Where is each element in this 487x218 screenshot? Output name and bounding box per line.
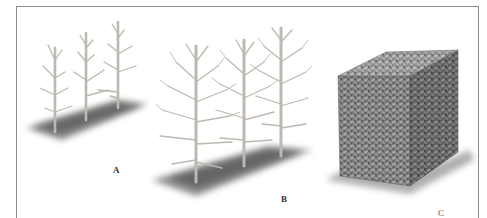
tree-b3 [250,28,312,156]
panel-label-a: A [113,166,120,175]
panel-a [26,22,148,140]
ground-patch-b [152,146,312,196]
panel-label-b: B [281,195,287,204]
drawing-canvas [0,0,487,218]
panel-c [326,50,474,194]
panel-b [152,28,312,196]
panel-label-c: C [438,209,444,218]
hedge-front-face [338,76,410,186]
tree-a3 [98,22,136,108]
illustration: A B C [0,0,487,218]
